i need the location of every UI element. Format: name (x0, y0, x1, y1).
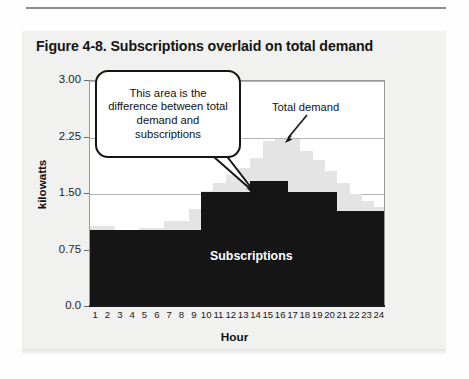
bar (164, 230, 177, 305)
bar (189, 230, 202, 305)
bar (127, 230, 140, 305)
bar (90, 230, 103, 305)
y-axis-label: kilowatts (35, 140, 48, 230)
bar (176, 230, 189, 305)
subscriptions-annotation: Subscriptions (210, 249, 293, 263)
y-tick-label: 0.75 (35, 243, 81, 255)
bar (263, 181, 276, 305)
bar (115, 230, 128, 305)
bar (250, 181, 263, 305)
y-tick-label: 0.0 (35, 299, 81, 311)
x-axis-label: Hour (0, 330, 469, 344)
bar (374, 211, 385, 305)
bar (337, 211, 350, 305)
callout-text: This area is the difference between tota… (97, 87, 239, 141)
bar (324, 192, 337, 305)
x-axis-line (89, 305, 385, 307)
bar (312, 192, 325, 305)
total-demand-annotation: Total demand (272, 101, 339, 113)
total-demand-arrow-icon (277, 113, 311, 145)
bar (349, 211, 362, 305)
bar (361, 211, 374, 305)
figure-page: Figure 4-8. Subscriptions overlaid on to… (0, 0, 469, 379)
bar (300, 192, 313, 305)
bar (102, 230, 115, 305)
x-axis-ticks: 123456789101112131415161718192021222324 (89, 309, 385, 324)
bar (139, 230, 152, 305)
y-tick-label: 3.00 (35, 73, 81, 85)
bar (152, 230, 165, 305)
chart: 0.00.751.502.253.00 kilowatts 1234567891… (0, 0, 469, 379)
callout-box: This area is the difference between tota… (95, 70, 241, 158)
x-tick-label: 24 (370, 309, 388, 320)
bar (275, 181, 288, 305)
